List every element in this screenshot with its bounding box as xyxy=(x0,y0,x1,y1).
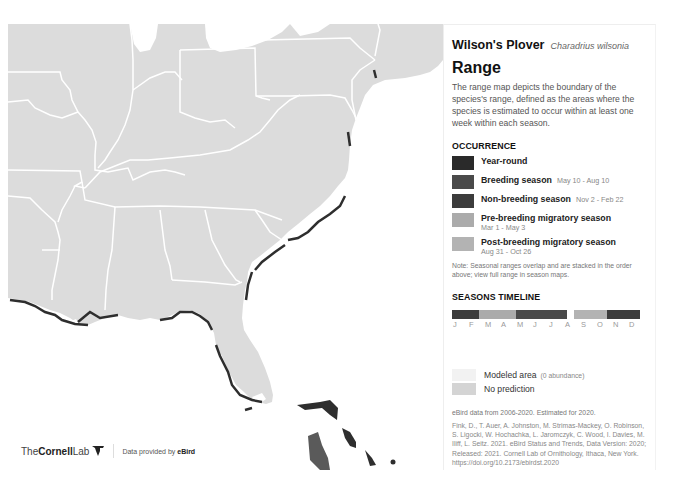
month-label: A xyxy=(500,320,516,329)
timeline-breeding xyxy=(516,310,567,319)
month-label: O xyxy=(596,320,612,329)
data-note: eBird data from 2006-2020. Estimated for… xyxy=(452,409,647,416)
info-panel: Wilson's Plover Charadrius wilsonia Rang… xyxy=(443,24,656,470)
swatch-no-prediction xyxy=(452,383,476,395)
swatch-post-breeding xyxy=(452,237,474,251)
legend-item-post-breeding: Post-breeding migratory season Aug 31 - … xyxy=(452,237,647,256)
timeline-pre-breeding xyxy=(479,310,516,319)
month-label: M xyxy=(516,320,532,329)
legend-item-pre-breeding: Pre-breeding migratory season Mar 1 - Ma… xyxy=(452,213,647,232)
legend-label: Year-round xyxy=(481,156,527,166)
month-label: M xyxy=(484,320,500,329)
swatch-breeding xyxy=(452,175,474,189)
seasons-timeline xyxy=(452,310,644,319)
footer: TheCornellLab Data provided by eBird xyxy=(21,444,195,458)
footer-divider xyxy=(113,444,114,458)
legend-item-year-round: Year-round xyxy=(452,156,647,170)
timeline-gap xyxy=(567,310,574,319)
timeline-non-breeding xyxy=(452,310,479,319)
modeled-area-label: Modeled area(0 abundance) xyxy=(484,370,584,380)
citation: Fink, D., T. Auer, A. Johnston, M. Strim… xyxy=(452,421,647,467)
range-heading: Range xyxy=(452,59,647,77)
month-label: A xyxy=(564,320,580,329)
swatch-pre-breeding xyxy=(452,213,474,227)
map-legend: Modeled area(0 abundance) No prediction xyxy=(452,369,647,395)
swatch-non-breeding xyxy=(452,194,474,208)
species-title: Wilson's Plover Charadrius wilsonia xyxy=(452,38,647,52)
month-label: F xyxy=(468,320,484,329)
swatch-year-round xyxy=(452,156,474,170)
legend-no-prediction: No prediction xyxy=(452,383,647,395)
occurrence-legend: Year-round Breeding season May 10 - Aug … xyxy=(452,156,647,256)
cornell-lab-logo[interactable]: TheCornellLab xyxy=(21,445,105,457)
timeline-non-breeding-end xyxy=(607,310,640,319)
timeline-post-breeding xyxy=(574,310,607,319)
bird-logo-icon xyxy=(91,445,105,457)
legend-label: Post-breeding migratory season xyxy=(481,237,616,247)
swatch-modeled-area xyxy=(452,369,476,381)
species-scientific-name: Charadrius wilsonia xyxy=(550,41,629,51)
legend-dates: May 10 - Aug 10 xyxy=(557,176,609,185)
legend-label: Breeding season xyxy=(481,175,552,185)
legend-dates: Mar 1 - May 3 xyxy=(481,223,611,232)
legend-item-non-breeding: Non-breeding season Nov 2 - Feb 22 xyxy=(452,194,647,208)
month-label: N xyxy=(612,320,628,329)
legend-item-breeding: Breeding season May 10 - Aug 10 xyxy=(452,175,647,189)
land-mass xyxy=(8,24,443,470)
month-label: D xyxy=(628,320,644,329)
no-prediction-label: No prediction xyxy=(484,384,535,394)
occurrence-heading: OCCURRENCE xyxy=(452,141,647,151)
legend-label: Pre-breeding migratory season xyxy=(481,213,611,223)
data-provider[interactable]: Data provided by eBird xyxy=(122,448,195,455)
legend-modeled-area: Modeled area(0 abundance) xyxy=(452,369,647,381)
month-label: J xyxy=(548,320,564,329)
month-label: J xyxy=(452,320,468,329)
timeline-months: J F M A M J J A S O N D xyxy=(452,320,644,329)
occurrence-note: Note: Seasonal ranges overlap and are st… xyxy=(452,261,647,279)
month-label: S xyxy=(580,320,596,329)
legend-dates: Aug 31 - Oct 26 xyxy=(481,247,616,256)
range-description: The range map depicts the boundary of th… xyxy=(452,81,647,129)
month-label: J xyxy=(532,320,548,329)
timeline-heading: SEASONS TIMELINE xyxy=(452,292,647,302)
legend-dates: Nov 2 - Feb 22 xyxy=(576,195,624,204)
species-common-name: Wilson's Plover xyxy=(452,38,544,52)
legend-label: Non-breeding season xyxy=(481,194,571,204)
